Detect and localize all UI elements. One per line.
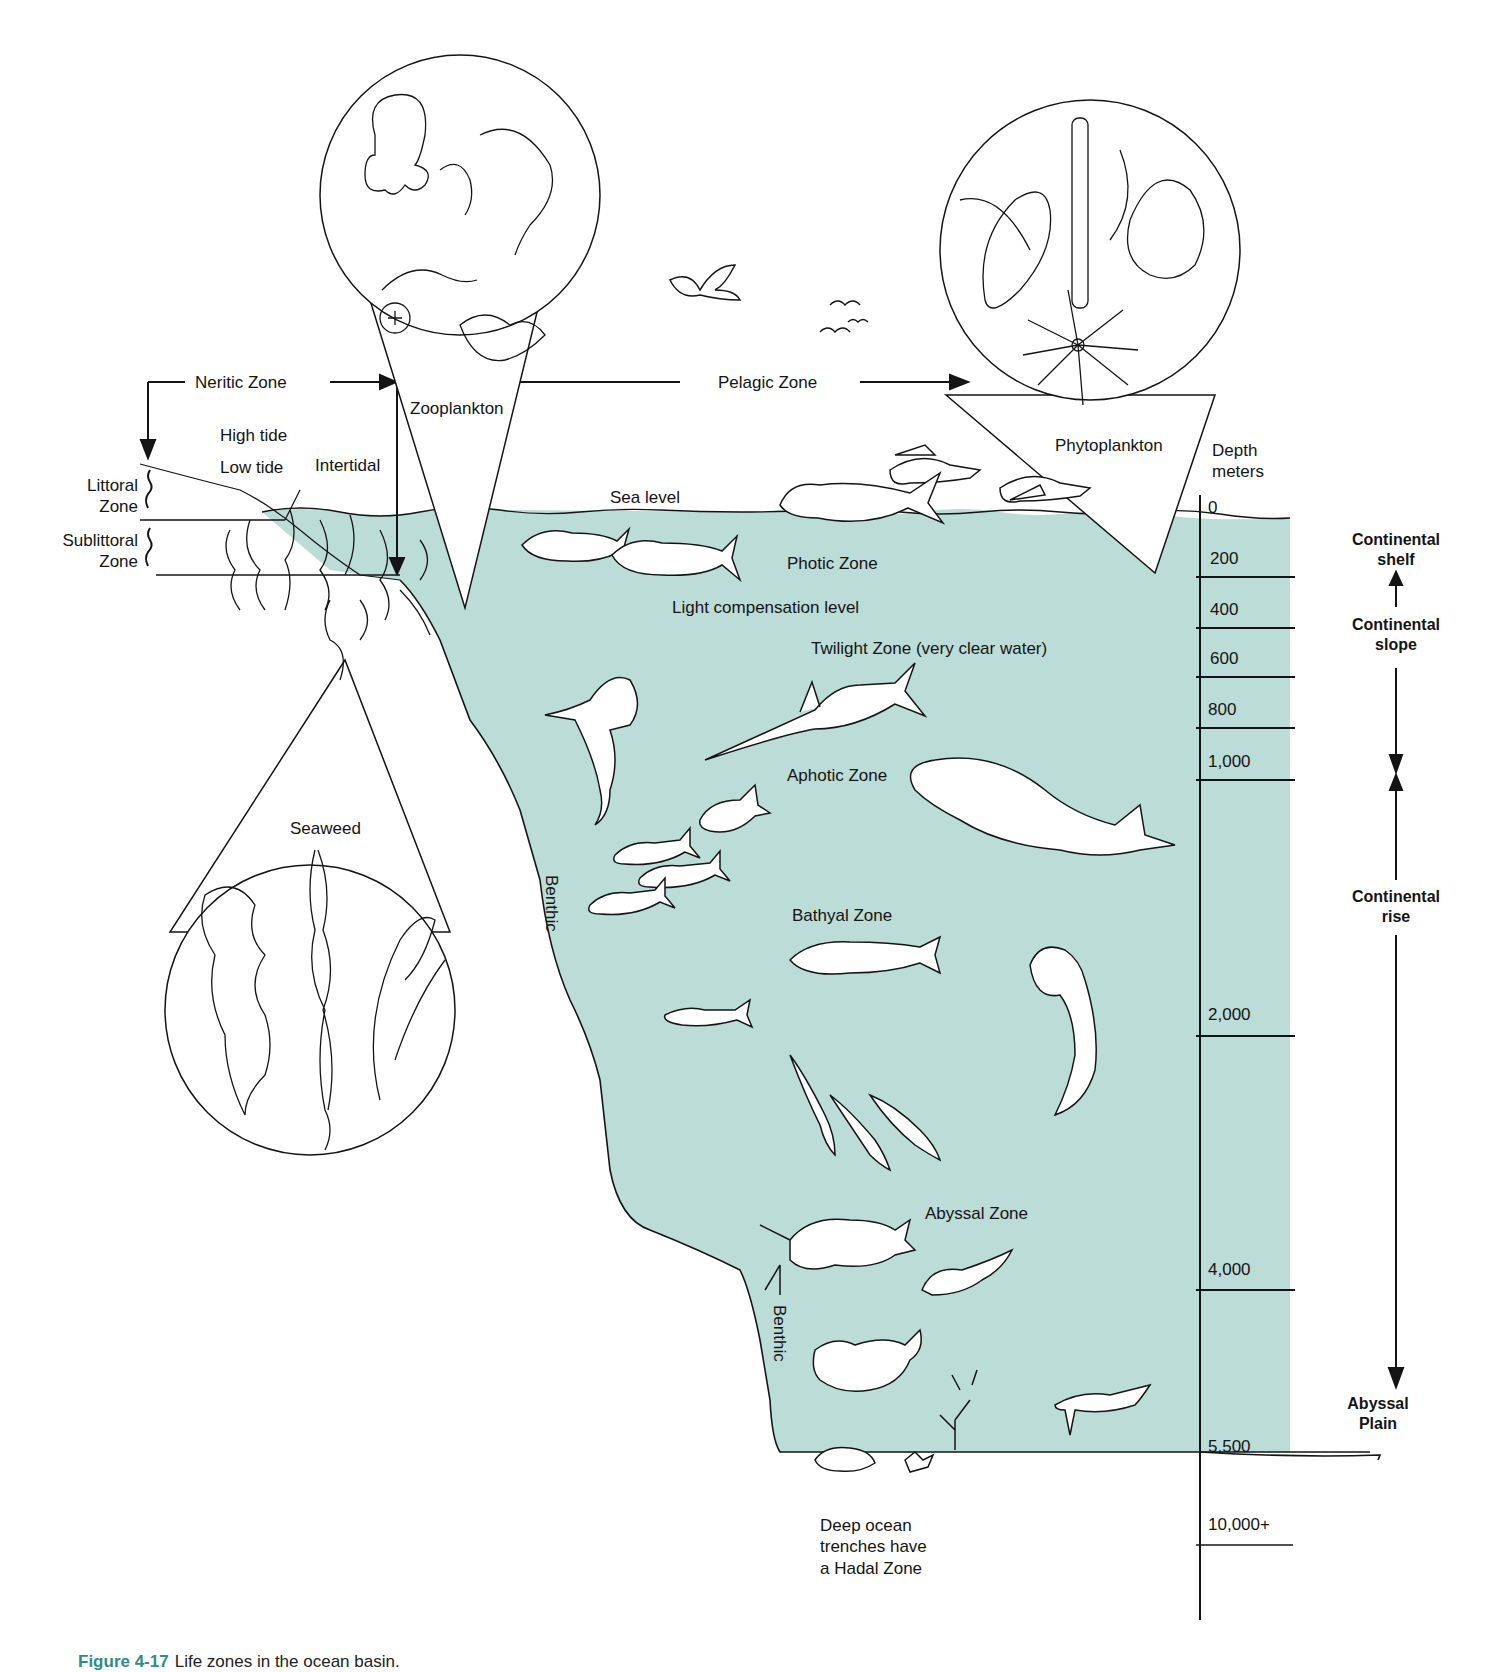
depth-tick-600: 600 xyxy=(1210,648,1238,669)
abyssal-plain-label: Abyssal Plain xyxy=(1322,1394,1434,1434)
caption-text: Life zones in the ocean basin. xyxy=(175,1652,400,1671)
depth-tick-1000: 1,000 xyxy=(1208,751,1251,772)
photic-zone-label: Photic Zone xyxy=(787,553,878,574)
low-tide-label: Low tide xyxy=(220,457,283,478)
depth-scale-title: Depth meters xyxy=(1212,440,1264,483)
depth-tick-200: 200 xyxy=(1210,548,1238,569)
benthic-upper-label: Benthic xyxy=(541,875,562,932)
sea-level-label: Sea level xyxy=(610,487,680,508)
depth-tick-2000: 2,000 xyxy=(1208,1004,1251,1025)
benthic-lower-label: Benthic xyxy=(769,1305,790,1362)
littoral-zone-label: Littoral Zone xyxy=(52,475,138,518)
aphotic-zone-label: Aphotic Zone xyxy=(787,765,887,786)
seaweed-label: Seaweed xyxy=(290,818,361,839)
zone-braces xyxy=(146,470,152,566)
abyssal-zone-label: Abyssal Zone xyxy=(925,1203,1028,1224)
pelagic-zone-label: Pelagic Zone xyxy=(718,372,817,393)
bathyal-zone-label: Bathyal Zone xyxy=(792,905,892,926)
seafloor-region-arrows xyxy=(1389,572,1403,1387)
hadal-zone-note: Deep ocean trenches have a Hadal Zone xyxy=(820,1515,927,1579)
depth-tick-10000: 10,000+ xyxy=(1208,1514,1270,1535)
intertidal-label: Intertidal xyxy=(315,455,380,476)
continental-shelf-label: Continental shelf xyxy=(1340,530,1452,570)
continental-rise-label: Continental rise xyxy=(1340,887,1452,927)
figure-number: Figure 4-17 xyxy=(78,1652,169,1671)
high-tide-label: High tide xyxy=(220,425,287,446)
depth-tick-800: 800 xyxy=(1208,699,1236,720)
distant-birds-icon xyxy=(820,301,868,332)
depth-tick-5500: 5,500 xyxy=(1208,1436,1251,1457)
twilight-zone-label: Twilight Zone (very clear water) xyxy=(811,638,1047,659)
sea-star-icon xyxy=(905,1452,933,1472)
depth-tick-400: 400 xyxy=(1210,599,1238,620)
depth-tick-4000: 4,000 xyxy=(1208,1259,1251,1280)
depth-tick-0: 0 xyxy=(1208,497,1217,518)
neritic-zone-label: Neritic Zone xyxy=(195,372,287,393)
birds xyxy=(670,265,868,332)
phytoplankton-label: Phytoplankton xyxy=(1055,435,1163,456)
sublittoral-zone-label: Sublittoral Zone xyxy=(30,530,138,573)
figure-caption: Figure 4-17Life zones in the ocean basin… xyxy=(78,1652,400,1672)
continental-slope-label: Continental slope xyxy=(1340,615,1452,655)
seagull-icon xyxy=(670,265,740,300)
light-compensation-label: Light compensation level xyxy=(672,597,859,618)
phytoplankton-inset xyxy=(940,100,1240,573)
zooplankton-label: Zooplankton xyxy=(410,398,504,419)
